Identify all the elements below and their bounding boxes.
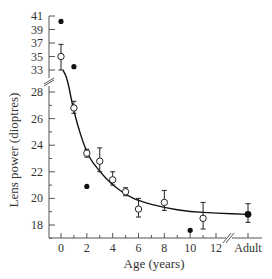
ticks: 024681012Adult1820222426283335373941 — [31, 9, 262, 255]
y-tick-label: 24 — [31, 138, 43, 152]
open-circle-marker — [84, 150, 90, 156]
y-tick-label: 41 — [31, 9, 43, 23]
individual-dot-marker — [58, 19, 63, 24]
open-circle-marker — [58, 53, 64, 59]
y-axis-label: Lens power (dioptres) — [6, 93, 21, 208]
open-circle-marker — [200, 215, 206, 221]
open-circle-marker — [135, 206, 141, 212]
chart-svg: 024681012Adult1820222426283335373941 Age… — [0, 0, 272, 279]
y-tick-label: 33 — [31, 63, 43, 77]
y-tick-label: 20 — [31, 191, 43, 205]
individual-dot-marker — [188, 228, 193, 233]
x-tick-label: 8 — [161, 241, 167, 255]
data-markers — [58, 19, 252, 233]
y-tick-label: 37 — [31, 36, 43, 50]
fitted-curve — [63, 70, 248, 214]
x-axis-label: Age (years) — [124, 256, 185, 271]
open-circle-marker — [97, 158, 103, 164]
open-circle-marker — [122, 189, 128, 195]
open-circle-marker — [71, 105, 77, 111]
y-tick-label: 39 — [31, 23, 43, 37]
y-tick-label: 35 — [31, 50, 43, 64]
fitted-curve-path — [63, 70, 248, 214]
individual-dot-marker — [84, 184, 89, 189]
y-tick-label: 26 — [31, 112, 43, 126]
x-tick-label: 10 — [184, 241, 196, 255]
y-tick-label: 28 — [31, 85, 43, 99]
open-circle-marker — [109, 177, 115, 183]
lens-power-chart: 024681012Adult1820222426283335373941 Age… — [0, 0, 272, 279]
adult-marker — [245, 211, 252, 218]
x-tick-label: Adult — [234, 241, 262, 255]
x-tick-label: 12 — [210, 241, 222, 255]
y-tick-label: 22 — [31, 165, 43, 179]
open-circle-marker — [161, 199, 167, 205]
individual-dot-marker — [71, 64, 76, 69]
x-tick-label: 6 — [136, 241, 142, 255]
x-tick-label: 4 — [110, 241, 116, 255]
x-tick-label: 2 — [84, 241, 90, 255]
error-bars — [59, 44, 251, 229]
y-tick-label: 18 — [31, 218, 43, 232]
x-tick-label: 0 — [58, 241, 64, 255]
axes — [44, 16, 262, 243]
